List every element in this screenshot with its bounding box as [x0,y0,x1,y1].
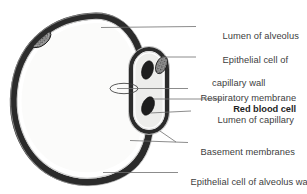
label-lumen-of-alveolus-text: Lumen of alveolus [223,31,299,41]
label-epithelial-cell-of-alveolus-wall: Epithelial cell of alveolus wall [180,166,307,194]
label-epithelial-cell-of-alveolus-wall-text: Epithelial cell of alveolus wall [191,177,307,187]
label-basement-membranes-text: Basement membranes [201,147,295,157]
respiratory-membrane-diagram: Lumen of alveolus Epithelial cell of cap… [0,0,307,194]
label-lumen-of-capillary-text: Lumen of capillary [218,115,294,125]
label-epithelial-cell-of-capillary-wall-line1: Epithelial cell of [223,55,289,65]
label-lumen-of-capillary: Lumen of capillary [207,104,294,138]
leader-basement-membranes-capillary [160,131,176,142]
label-basement-membranes: Basement membranes [190,136,295,170]
